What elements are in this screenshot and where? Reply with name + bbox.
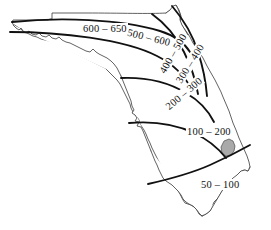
band-label-50-100: 50 – 100 xyxy=(200,179,240,190)
florida-contour-map: 600 – 650 500 – 600 400 – 500 300 – 400 … xyxy=(0,0,271,230)
band-label-100-200: 100 – 200 xyxy=(186,126,232,137)
band-label-600-650: 600 – 650 xyxy=(82,23,128,34)
